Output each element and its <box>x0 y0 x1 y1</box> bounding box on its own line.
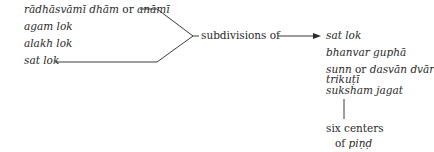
right-item-bhanvar-gupha: bhanvar guphā <box>326 46 406 59</box>
term: rādhāsvāmī dhām <box>24 3 119 15</box>
bracket-bottom-line <box>55 36 193 62</box>
bottom-node-line1: six centers <box>326 122 384 135</box>
left-item-agam-lok: agam lok <box>24 20 73 33</box>
of-word: of <box>335 137 345 149</box>
left-item-sat-lok: sat lok <box>24 54 59 67</box>
left-item-radhasvami: rādhāsvāmī dhām or anāmī <box>24 3 170 16</box>
term: anāmī <box>137 3 170 15</box>
left-item-alakh-lok: alakh lok <box>24 37 72 50</box>
bottom-node-line2: of piṇḍ <box>335 137 372 150</box>
term: piṇḍ <box>349 137 373 149</box>
term: dasvān dvār <box>370 63 434 75</box>
right-item-sat-lok: sat lok <box>326 29 361 42</box>
arrowhead-icon <box>313 33 321 39</box>
relation-label: subdivisions of <box>201 29 280 42</box>
connector-word: or <box>122 3 133 15</box>
right-item-suksham-jagat: suksham jagat <box>326 84 403 97</box>
